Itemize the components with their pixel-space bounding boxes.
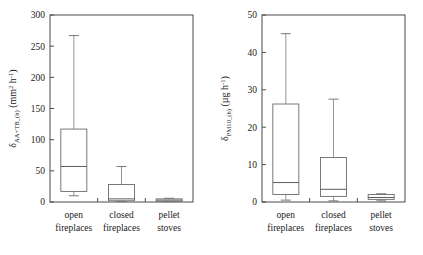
boxplot-1 (273, 34, 299, 200)
right-chart-svg: 01020304050openfireplacesclosedfireplace… (212, 0, 423, 255)
x-axis-category-label: pellet (371, 210, 392, 220)
x-axis-category-label: open (65, 210, 84, 220)
boxplot-1 (61, 36, 87, 196)
y-axis-tick-label: 50 (36, 166, 46, 176)
x-axis-category-label: closed (321, 210, 346, 220)
box-iqr (368, 195, 394, 200)
y-axis-tick-label: 10 (248, 160, 258, 170)
left-chart-panel: 050100150200250300openfireplacesclosedfi… (0, 0, 211, 255)
y-axis-tick-label: 200 (31, 73, 46, 83)
box-iqr (61, 129, 87, 191)
x-axis-category-label: fireplaces (55, 223, 92, 233)
x-axis-category-label: fireplaces (315, 223, 352, 233)
y-axis-tick-label: 50 (248, 10, 258, 20)
x-axis-category-label: closed (109, 210, 134, 220)
y-axis-tick-label: 40 (248, 48, 258, 58)
y-axis-tick-label: 30 (248, 85, 258, 95)
x-axis-category-label: stoves (157, 223, 181, 233)
box-iqr (109, 185, 135, 201)
y-axis-tick-label: 0 (252, 197, 257, 207)
x-axis-category-label: fireplaces (267, 223, 304, 233)
x-axis-category-label: fireplaces (103, 223, 140, 233)
boxplot-3 (156, 198, 182, 201)
y-axis-title: δPM10_(h) (µg h-1) (219, 76, 233, 141)
boxplot-figure: 050100150200250300openfireplacesclosedfi… (0, 0, 423, 255)
left-chart-svg: 050100150200250300openfireplacesclosedfi… (0, 0, 211, 255)
x-axis-category-label: pellet (159, 210, 180, 220)
y-axis-tick-label: 20 (248, 123, 258, 133)
y-axis-tick-label: 100 (31, 135, 46, 145)
y-axis-tick-label: 0 (40, 197, 45, 207)
right-chart-panel: 01020304050openfireplacesclosedfireplace… (212, 0, 423, 255)
box-iqr (273, 104, 299, 195)
boxplot-3 (368, 194, 394, 201)
x-axis-category-label: open (277, 210, 296, 220)
y-axis-tick-label: 250 (31, 42, 46, 52)
y-axis-tick-label: 300 (31, 10, 46, 20)
boxplot-2 (321, 99, 347, 201)
y-axis-title: δAA+TB_(h) (mm2 h-1) (7, 69, 21, 147)
box-iqr (321, 157, 347, 196)
y-axis-tick-label: 150 (31, 104, 46, 114)
boxplot-2 (109, 166, 135, 201)
x-axis-category-label: stoves (369, 223, 393, 233)
